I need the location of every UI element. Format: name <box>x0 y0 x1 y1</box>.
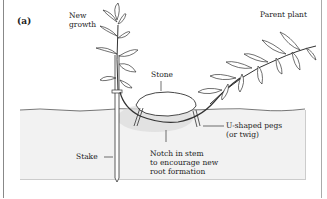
label-pegs-line2: (or twig) <box>226 131 259 140</box>
label-parent-plant: Parent plant <box>260 11 307 20</box>
label-stone: Stone <box>151 71 173 80</box>
stone-icon <box>136 92 196 116</box>
label-stake: Stake <box>76 153 98 162</box>
panel-label: (a) <box>17 16 31 26</box>
label-new-growth-line2: growth <box>69 21 96 30</box>
label-notch-line3: root formation <box>150 168 205 177</box>
parent-plant-leaves <box>198 32 316 100</box>
